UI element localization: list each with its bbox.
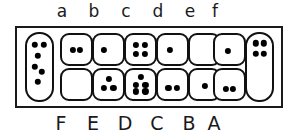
column-label-top-b: b [82, 3, 106, 20]
cell-bottom-C[interactable] [156, 68, 189, 101]
pip-dot [230, 86, 236, 92]
pip-dot [35, 53, 41, 59]
pip-dot [142, 81, 148, 87]
pip-dot [105, 76, 111, 82]
pip-dot [77, 46, 83, 52]
bottom-label-row: FEDCBA [0, 112, 299, 138]
pip-dot [100, 85, 106, 91]
column-label-bottom-F: F [48, 114, 74, 133]
pip-dot [225, 48, 231, 54]
pip-dot [35, 78, 41, 84]
pip-dot [260, 51, 266, 57]
left-tall-cell[interactable] [25, 32, 54, 102]
column-label-top-a: a [50, 3, 74, 20]
column-label-top-e: e [178, 3, 202, 20]
pip-dot [142, 42, 148, 48]
pip-dot [31, 64, 37, 70]
cell-bottom-E[interactable] [92, 68, 125, 101]
pip-dot [201, 83, 207, 89]
pip-dot [132, 88, 138, 94]
pip-dot [167, 46, 173, 52]
cell-bottom-A[interactable] [213, 68, 246, 101]
cell-top-a[interactable] [60, 33, 93, 66]
pip-dot [173, 85, 179, 91]
column-label-top-f: f [203, 3, 227, 20]
column-label-top-c: c [114, 3, 138, 20]
top-label-row: abcdef [0, 0, 299, 24]
pip-dot [142, 88, 148, 94]
cell-top-f[interactable] [213, 33, 246, 66]
column-label-bottom-C: C [144, 114, 170, 133]
pip-dot [137, 74, 143, 80]
column-label-bottom-B: B [176, 114, 202, 133]
pip-dot [165, 85, 171, 91]
domino-grid-figure: abcdef FEDCBA [0, 0, 299, 140]
pip-dot [252, 40, 258, 46]
pip-dot [252, 51, 258, 57]
cell-top-d[interactable] [156, 33, 189, 66]
pip-dot [70, 46, 76, 52]
column-label-bottom-A: A [201, 114, 227, 133]
column-label-top-d: d [146, 3, 170, 20]
pip-dot [101, 47, 107, 53]
pip-dot [132, 81, 138, 87]
pip-dot [133, 50, 139, 56]
cell-bottom-F[interactable] [60, 68, 93, 101]
cell-top-b[interactable] [92, 33, 125, 66]
pip-dot [39, 68, 45, 74]
cell-top-c[interactable] [124, 33, 157, 66]
right-tall-cell[interactable] [245, 32, 274, 102]
pip-dot [41, 41, 47, 47]
pip-dot [260, 40, 266, 46]
pip-dot [133, 42, 139, 48]
pip-dot [31, 41, 37, 47]
column-label-bottom-D: D [112, 114, 138, 133]
pip-dot [223, 86, 229, 92]
pip-dot [142, 50, 148, 56]
pip-dot [110, 85, 116, 91]
column-label-bottom-E: E [80, 114, 106, 133]
cell-bottom-D[interactable] [124, 68, 157, 101]
